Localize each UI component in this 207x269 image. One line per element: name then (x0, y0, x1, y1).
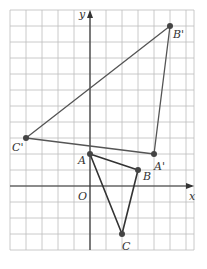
x-axis-arrow-icon (186, 183, 194, 189)
vertex-label-b: B (142, 170, 151, 183)
coordinate-diagram: xyOABCA'B'C' (0, 0, 207, 269)
vertex-point-c (119, 231, 125, 237)
vertex-point-c-prime (23, 135, 29, 141)
x-axis-label: x (189, 190, 196, 203)
grid-lines (10, 10, 194, 250)
y-axis-label: y (78, 8, 86, 21)
vertex-label-c: C (122, 240, 131, 253)
labels: xyOABCA'B'C' (12, 8, 196, 253)
axes (10, 10, 194, 250)
vertex-point-b (135, 167, 141, 173)
y-axis-arrow-icon (87, 10, 93, 18)
vertex-label-a: A (77, 154, 86, 167)
vertex-label-b-prime: B' (172, 28, 184, 41)
vertex-label-a-prime: A' (153, 160, 165, 173)
triangle-abc (90, 154, 138, 234)
vertex-point-a (87, 151, 93, 157)
origin-label: O (78, 190, 87, 203)
vertex-point-a-prime (151, 151, 157, 157)
vertex-label-c-prime: C' (12, 141, 23, 154)
triangles (23, 23, 173, 237)
